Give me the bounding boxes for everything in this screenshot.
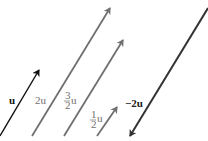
vector-half-u-label: 1 2 u — [90, 108, 103, 130]
svg-text:u: u — [97, 112, 103, 124]
svg-text:u: u — [71, 94, 77, 106]
vector-u-arrow — [0, 70, 39, 136]
vector-u-label: u — [9, 94, 15, 106]
svg-text:2: 2 — [91, 118, 97, 130]
vector-neg-2u-label: −2u — [125, 97, 143, 109]
vector-2u-label: 2u — [35, 94, 47, 106]
vector-three-halves-u-label: 3 2 u — [64, 89, 77, 111]
vector-diagram: u 2u 3 2 u 1 2 u −2u — [0, 0, 208, 141]
vector-neg-2u-arrow — [130, 8, 208, 136]
svg-text:2: 2 — [65, 99, 71, 111]
